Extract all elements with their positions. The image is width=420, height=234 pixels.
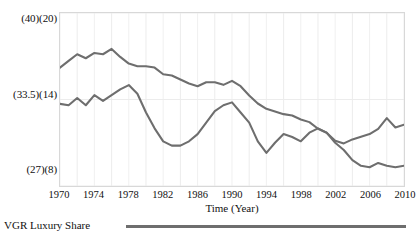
y-axis-label-middle: (33.5)(14) xyxy=(0,88,57,100)
x-tick-2002: 2002 xyxy=(319,188,353,202)
x-tick-1978: 1978 xyxy=(111,188,145,202)
x-tick-1998: 1998 xyxy=(284,188,318,202)
x-tick-1986: 1986 xyxy=(180,188,214,202)
y-axis-label-top: (40)(20) xyxy=(0,12,57,24)
x-tick-1982: 1982 xyxy=(146,188,180,202)
x-tick-1990: 1990 xyxy=(215,188,249,202)
plot-canvas xyxy=(60,13,404,186)
legend-label-vgr-luxury-share: VGR Luxury Share xyxy=(4,218,90,232)
y-axis-label-bottom: (27)(8) xyxy=(0,163,57,175)
legend-line-swatch xyxy=(126,225,406,228)
x-axis-title: Time (Year) xyxy=(59,201,405,215)
x-tick-1974: 1974 xyxy=(77,188,111,202)
plot-area xyxy=(59,12,405,187)
x-tick-1970: 1970 xyxy=(42,188,76,202)
chart-legend: VGR Luxury Share xyxy=(4,218,410,234)
x-tick-1994: 1994 xyxy=(250,188,284,202)
x-tick-2010: 2010 xyxy=(388,188,420,202)
x-tick-2006: 2006 xyxy=(353,188,387,202)
